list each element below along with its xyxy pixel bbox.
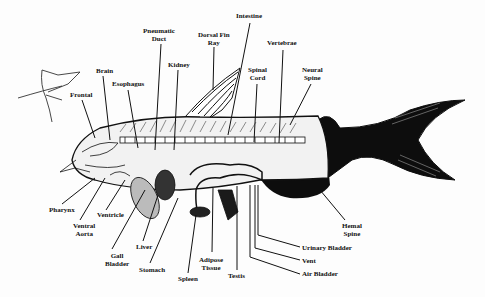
label-ventricle: Ventricle	[97, 211, 124, 219]
label-pneumatic-duct-line2: Duct	[143, 35, 175, 43]
label-adipose-tissue-line1: Adipose	[199, 256, 223, 264]
label-kidney: Kidney	[168, 61, 190, 69]
label-urinary-bladder: Urinary Bladder	[302, 244, 352, 252]
label-spinal-cord-line2: Cord	[248, 74, 267, 82]
label-neural-spine-line1: Neural	[302, 66, 323, 74]
label-dorsal-fin-ray: Dorsal Fin Ray	[198, 31, 230, 47]
label-adipose-tissue: Adipose Tissue	[199, 256, 223, 272]
label-gall-bladder: Gall Bladder	[105, 252, 129, 268]
label-intestine: Intestine	[236, 12, 262, 20]
label-vertebrae: Vertebrae	[267, 39, 297, 47]
label-hemal-spine-line1: Hemal	[342, 222, 362, 230]
label-liver: Liver	[136, 243, 152, 251]
label-vent: Vent	[302, 257, 316, 265]
label-ventral-aorta-line2: Aorta	[73, 230, 95, 238]
label-ventral-aorta: Ventral Aorta	[73, 222, 95, 238]
fish-illustration	[0, 0, 485, 297]
label-dorsal-fin-ray-line1: Dorsal Fin	[198, 31, 230, 39]
fish-body	[72, 116, 328, 190]
label-gall-bladder-line1: Gall	[105, 252, 129, 260]
caudal-fin	[318, 100, 465, 180]
label-pneumatic-duct: Pneumatic Duct	[143, 27, 175, 43]
label-frontal: Frontal	[70, 91, 92, 99]
label-spinal-cord: Spinal Cord	[248, 66, 267, 82]
label-pneumatic-duct-line1: Pneumatic	[143, 27, 175, 35]
dorsal-fin	[185, 68, 240, 118]
label-dorsal-fin-ray-line2: Ray	[198, 39, 230, 47]
label-stomach: Stomach	[139, 266, 165, 274]
label-hemal-spine-line2: Spine	[342, 230, 362, 238]
label-gall-bladder-line2: Bladder	[105, 260, 129, 268]
label-air-bladder: Air Bladder	[302, 270, 338, 278]
label-spleen: Spleen	[178, 275, 198, 283]
label-pharynx: Pharynx	[49, 206, 75, 214]
label-spinal-cord-line1: Spinal	[248, 66, 267, 74]
label-neural-spine: Neural Spine	[302, 66, 323, 82]
label-neural-spine-line2: Spine	[302, 74, 323, 82]
label-esophagus: Esophagus	[112, 80, 144, 88]
label-testis: Testis	[228, 272, 245, 280]
label-ventral-aorta-line1: Ventral	[73, 222, 95, 230]
label-brain: Brain	[96, 67, 113, 75]
vertebral-column	[120, 137, 305, 143]
label-adipose-tissue-line2: Tissue	[199, 264, 223, 272]
label-hemal-spine: Hemal Spine	[342, 222, 362, 238]
fish-anatomy-diagram: Intestine Pneumatic Duct Dorsal Fin Ray …	[0, 0, 485, 297]
